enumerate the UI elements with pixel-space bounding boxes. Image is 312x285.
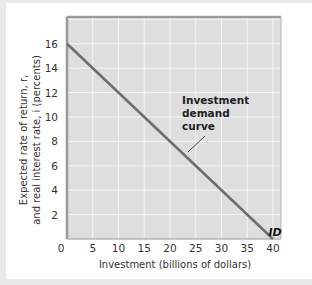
id-curve-label: ID xyxy=(268,226,281,239)
y-axis-title-line1: Expected rate of return, r, xyxy=(18,75,29,205)
curve-label: curve xyxy=(182,120,215,132)
y-axis-ticks: 246810121416 xyxy=(45,38,59,221)
x-tick-label: 30 xyxy=(215,242,228,254)
x-tick-label: 35 xyxy=(241,242,254,254)
x-tick-label: 15 xyxy=(138,242,151,254)
y-axis-title-line2: and real interest rate, i (percents) xyxy=(31,55,42,225)
y-tick-label: 8 xyxy=(51,135,58,147)
curve-label: Investment xyxy=(182,94,249,106)
plot-area xyxy=(67,17,281,239)
y-tick-label: 6 xyxy=(51,160,58,172)
x-tick-label: 0 xyxy=(58,242,65,254)
x-tick-label: 20 xyxy=(163,242,176,254)
y-tick-label: 16 xyxy=(45,38,59,50)
x-tick-label: 5 xyxy=(89,242,96,254)
curve-label: demand xyxy=(182,107,230,119)
x-tick-label: 10 xyxy=(112,242,125,254)
x-tick-label: 25 xyxy=(189,242,202,254)
x-tick-label: 40 xyxy=(266,242,279,254)
x-axis-ticks: 0510152025303540 xyxy=(58,242,280,254)
y-tick-label: 14 xyxy=(45,62,59,74)
y-tick-label: 4 xyxy=(51,184,58,196)
investment-demand-chart: 0510152025303540 246810121416 Investment… xyxy=(0,0,312,285)
y-tick-label: 12 xyxy=(45,87,58,99)
plot-background xyxy=(67,17,281,239)
y-tick-label: 2 xyxy=(51,209,58,221)
y-tick-label: 10 xyxy=(45,111,58,123)
x-axis-title: Investment (billions of dollars) xyxy=(99,259,251,270)
